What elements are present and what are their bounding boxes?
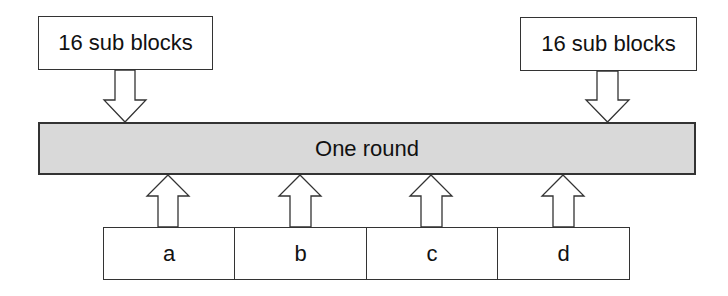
up-arrow-a-icon [147, 175, 189, 227]
down-arrow-left-icon [104, 70, 146, 122]
up-arrow-d-icon [542, 175, 584, 227]
up-arrow-b-icon [279, 175, 321, 227]
down-arrow-right-icon [586, 71, 629, 122]
arrows-layer [0, 0, 728, 296]
up-arrow-c-icon [410, 175, 452, 227]
